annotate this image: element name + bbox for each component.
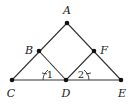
label-B: B bbox=[24, 44, 33, 57]
label-E: E bbox=[117, 87, 126, 100]
point-F bbox=[92, 49, 97, 54]
point-B bbox=[37, 49, 42, 54]
label-D: D bbox=[61, 87, 71, 100]
point-E bbox=[119, 78, 124, 83]
angle-1-label: 1 bbox=[47, 69, 53, 80]
point-D bbox=[64, 78, 69, 83]
angle-2-label: 2 bbox=[78, 69, 84, 80]
point-C bbox=[10, 78, 15, 83]
geometry-diagram: A B F C D E 1 2 bbox=[0, 0, 133, 104]
labels: A B F C D E 1 2 bbox=[7, 4, 126, 100]
label-C: C bbox=[7, 87, 16, 100]
label-F: F bbox=[99, 44, 108, 57]
angle-2-arc bbox=[84, 70, 89, 80]
label-A: A bbox=[62, 4, 71, 17]
point-A bbox=[65, 21, 70, 26]
